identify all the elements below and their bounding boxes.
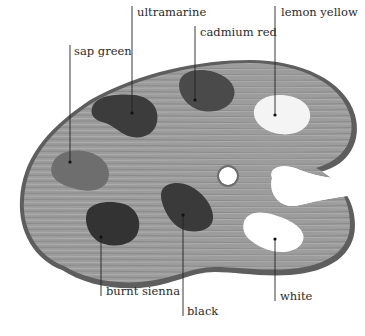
label-white: white [280,291,312,303]
label-burnt-sienna: burnt sienna [106,286,180,298]
label-sap-green: sap green [74,46,132,58]
label-ultramarine: ultramarine [137,7,206,19]
palette-illustration [0,0,365,336]
palette-diagram: ultramarine cadmium red lemon yellow sap… [0,0,365,336]
label-black: black [187,306,218,318]
label-lemon-yellow: lemon yellow [281,7,358,19]
label-cadmium-red: cadmium red [200,27,277,39]
